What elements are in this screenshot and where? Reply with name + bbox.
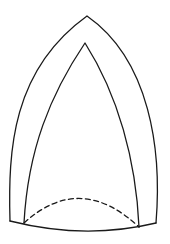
inner-arch bbox=[24, 43, 139, 227]
arch-diagram bbox=[0, 0, 170, 244]
outer-arch bbox=[10, 16, 158, 223]
dashed-curve bbox=[24, 198, 139, 227]
